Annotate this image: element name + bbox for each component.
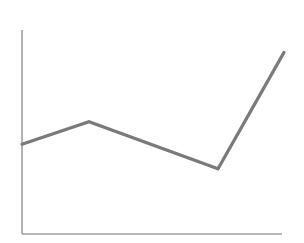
data-series-line bbox=[22, 52, 284, 168]
chart-canvas bbox=[0, 0, 304, 243]
line-chart bbox=[0, 0, 304, 243]
